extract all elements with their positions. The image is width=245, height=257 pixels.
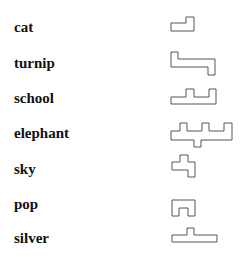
shape-cat-icon — [171, 17, 194, 31]
shape-turnip-icon — [171, 52, 215, 75]
shape-pop-icon — [172, 200, 195, 216]
shape-elephant-icon — [171, 123, 232, 147]
shape-silver-icon — [172, 228, 217, 242]
shape-sky-icon — [172, 155, 195, 177]
shape-column — [0, 0, 245, 257]
shape-school-icon — [171, 89, 216, 104]
